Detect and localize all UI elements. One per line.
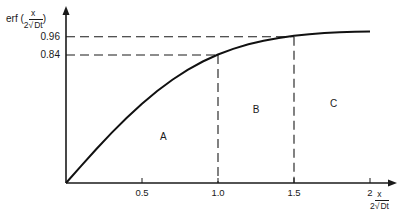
- x-axis-label: x2√Dt: [370, 190, 389, 210]
- region-label-a: A: [160, 132, 167, 142]
- x-tick-label: 0.5: [135, 188, 148, 198]
- x-tick-label: 1.0: [211, 188, 224, 198]
- y-axis-label-suffix: ): [43, 13, 46, 24]
- y-axis-fraction: x2√Dt: [24, 9, 43, 29]
- chart-canvas: [0, 0, 409, 214]
- y-axis-label: erf (x2√Dt): [6, 9, 46, 29]
- den-coef: 2: [24, 20, 29, 30]
- y-tick-label: 0.84: [20, 50, 60, 60]
- den-root: Dt: [33, 19, 43, 30]
- y-tick-label: 0.96: [20, 32, 60, 42]
- reference-lines: [66, 37, 294, 183]
- region-label-b: B: [253, 105, 260, 115]
- y-axis-fraction-den: 2√Dt: [24, 20, 43, 30]
- y-axis-fraction-num: x: [29, 9, 37, 20]
- x-axis-fraction: x2√Dt: [370, 190, 389, 210]
- den-coef: 2: [370, 201, 375, 211]
- x-axis-fraction-den: 2√Dt: [370, 201, 389, 211]
- y-axis-arrow-icon: [63, 6, 70, 15]
- x-axis-arrow-icon: [388, 180, 397, 187]
- y-axis-label-prefix: erf (: [6, 13, 24, 24]
- axes: [63, 6, 398, 187]
- den-root: Dt: [379, 200, 389, 211]
- region-label-c: C: [330, 99, 337, 109]
- x-axis-fraction-num: x: [375, 190, 383, 201]
- x-tick-label: 1.5: [287, 188, 300, 198]
